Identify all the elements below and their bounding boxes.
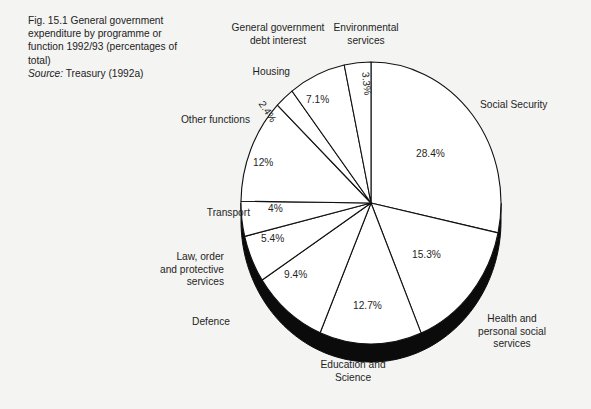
slice-percent-transport: 4% — [268, 203, 283, 214]
slice-percent-law-order-and-protective-services: 5.4% — [261, 233, 284, 244]
slice-label-education-and-science: Education and Science — [298, 359, 408, 384]
slice-label-health-and-personal-social-services: Health and personal social services — [466, 313, 558, 351]
slice-percent-education-and-science: 12.7% — [353, 300, 382, 311]
slice-label-other-functions: Other functions — [168, 114, 250, 127]
slice-label-transport: Transport — [168, 207, 250, 220]
slice-percent-housing: 7.1% — [306, 94, 329, 105]
figure-page: Fig. 15.1 General government expenditure… — [0, 0, 591, 409]
slice-label-law-order-and-protective-services: Law, order and protective services — [128, 251, 224, 289]
slice-label-housing: Housing — [222, 66, 290, 79]
slice-label-defence: Defence — [164, 316, 230, 329]
slice-percent-other-functions: 12% — [253, 157, 273, 168]
slice-percent-environmental-services: 3.3% — [360, 71, 373, 95]
slice-percent-health-and-personal-social-services: 15.3% — [412, 249, 441, 260]
slice-percent-defence: 9.4% — [284, 269, 307, 280]
slice-label-environmental-services: Environmental services — [316, 22, 416, 47]
slice-label-social-security: Social Security — [480, 99, 576, 112]
slice-percent-social-security: 28.4% — [416, 148, 445, 159]
